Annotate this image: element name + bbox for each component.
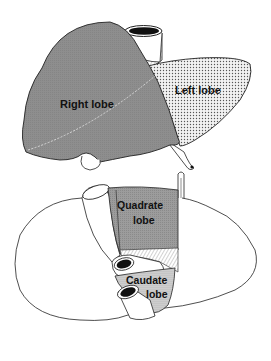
caudate-lobe-label-line1: Caudate — [126, 274, 168, 286]
right-lobe-label: Right lobe — [60, 98, 114, 110]
quadrate-lobe-label-line2: lobe — [133, 214, 155, 226]
caudate-lobe-label-line2: lobe — [146, 288, 168, 300]
upper-liver-view: Right lobe Left lobe — [22, 22, 250, 170]
liver-lobes-diagram: Right lobe Left lobe Q — [0, 0, 271, 361]
left-lobe-label: Left lobe — [175, 84, 221, 96]
lower-liver-view: Quadrate lobe Caudate lobe — [15, 172, 256, 320]
quadrate-lobe-label-line1: Quadrate — [117, 199, 163, 211]
